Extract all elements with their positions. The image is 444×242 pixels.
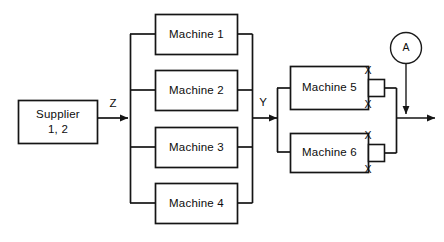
supplier-node: Supplier 1, 2 — [19, 101, 98, 144]
edge-supplier-to-stage1: Z — [98, 97, 129, 118]
flow-label-z: Z — [109, 97, 116, 109]
flow-diagram-canvas: Supplier 1, 2 Z Machine 1 Machine 2 Mac — [0, 0, 444, 242]
stage1-distribution-bus — [130, 34, 155, 203]
supplier-label-line1: Supplier — [36, 108, 80, 120]
machine-2-label: Machine 2 — [169, 84, 224, 96]
machine-5-port-top-label: X — [364, 64, 371, 76]
edge-stage1-to-stage2: Y — [253, 96, 278, 118]
stage1-collection-bus — [237, 34, 253, 203]
stage1-machine-4: Machine 4 — [156, 184, 238, 224]
supplier-label-line2: 1, 2 — [48, 123, 68, 135]
supplier-box — [19, 101, 98, 144]
inspection-node-label: A — [402, 41, 409, 53]
flow-label-y: Y — [259, 96, 267, 108]
stage2-machine-5: Machine 5 X X — [291, 64, 385, 110]
machine-5-port-bottom-label: X — [364, 98, 371, 110]
stage2-distribution-bus — [277, 88, 290, 152]
machine-6-port-top-label: X — [364, 129, 371, 141]
machine-1-label: Machine 1 — [169, 28, 224, 40]
machine-6-label: Machine 6 — [302, 146, 357, 158]
machine-5-label: Machine 5 — [302, 81, 357, 93]
stage2-machine-6: Machine 6 X X — [291, 129, 385, 175]
inspection-node-a: A — [391, 33, 422, 115]
stage1-machine-1: Machine 1 — [156, 15, 238, 55]
machine-5-output-port — [369, 80, 385, 97]
stage2-collection-bus — [385, 88, 397, 153]
machine-4-label: Machine 4 — [169, 197, 224, 209]
flow-diagram: Supplier 1, 2 Z Machine 1 Machine 2 Mac — [0, 0, 444, 242]
stage1-machine-2: Machine 2 — [156, 71, 238, 111]
machine-3-label: Machine 3 — [169, 141, 224, 153]
stage1-machine-3: Machine 3 — [156, 128, 238, 168]
machine-6-output-port — [369, 145, 385, 162]
machine-6-port-bottom-label: X — [364, 163, 371, 175]
